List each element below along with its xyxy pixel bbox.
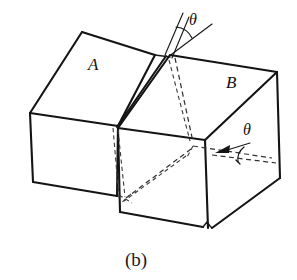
figure-container: θ θ A B (b) (0, 0, 297, 280)
block-b-label: B (226, 73, 237, 92)
theta-right-label: θ (243, 121, 251, 138)
theta-top-annotation: θ (165, 11, 212, 58)
block-a-label: A (87, 55, 99, 74)
theta-top-line-normal (165, 13, 183, 55)
theta-top-line-normal-b (172, 17, 189, 58)
figure-caption: (b) (125, 249, 147, 271)
theta-top-label: θ (189, 11, 197, 28)
block-b-front-face (118, 128, 208, 228)
block-crack-diagram: θ θ A B (b) (0, 0, 297, 280)
